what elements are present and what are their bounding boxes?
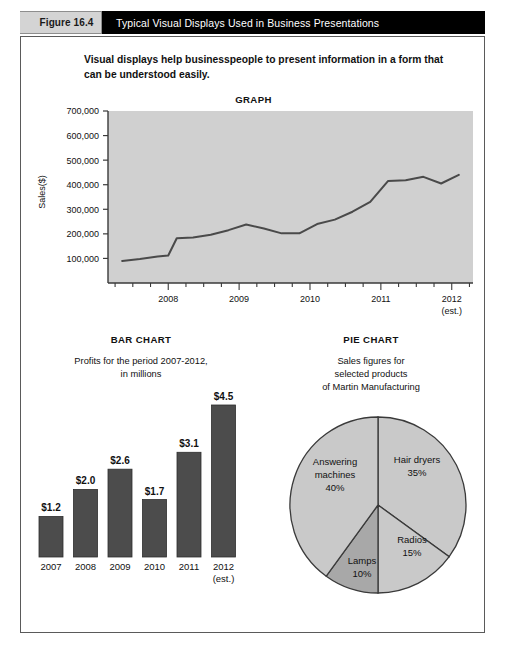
svg-text:2009: 2009 <box>109 561 130 572</box>
svg-text:$2.0: $2.0 <box>76 475 96 486</box>
svg-text:40%: 40% <box>325 482 345 493</box>
svg-text:2010: 2010 <box>144 561 165 572</box>
bar-chart-subtitle: Profits for the period 2007-2012, in mil… <box>31 355 251 381</box>
svg-text:700,000: 700,000 <box>66 106 99 116</box>
bar-chart-bars <box>39 405 236 557</box>
pie-chart-subtitle-line3: of Martin Manufacturing <box>266 381 476 394</box>
svg-text:600,000: 600,000 <box>66 131 99 141</box>
svg-text:Radios: Radios <box>397 534 427 545</box>
svg-text:2012: 2012 <box>213 561 234 572</box>
graph-x-ticks <box>115 283 469 290</box>
figure-number-tab: Figure 16.4 <box>20 11 102 34</box>
svg-text:100,000: 100,000 <box>66 254 99 264</box>
svg-text:2008: 2008 <box>158 294 178 304</box>
svg-text:2011: 2011 <box>179 561 199 572</box>
graph-x-tick-labels: 20082009201020112012(est.) <box>158 294 462 316</box>
svg-text:$4.5: $4.5 <box>214 391 234 402</box>
svg-text:15%: 15% <box>402 547 422 558</box>
intro-text: Visual displays help businesspeople to p… <box>84 52 454 82</box>
bar-chart-category-labels: 200720082009201020112012(est.) <box>40 561 234 584</box>
svg-text:400,000: 400,000 <box>66 180 99 190</box>
bar-chart: $1.2$2.0$2.6$1.7$3.1$4.5 200720082009201… <box>31 385 251 625</box>
graph-y-axis-label: Sales($) <box>37 157 47 227</box>
figure-number-label: Figure 16.4 <box>28 17 94 28</box>
pie-chart-section-title: PIE CHART <box>266 334 476 345</box>
bar-chart-section-title: BAR CHART <box>31 334 251 345</box>
bar-chart-subtitle-line1: Profits for the period 2007-2012, <box>31 355 251 368</box>
svg-text:200,000: 200,000 <box>66 229 99 239</box>
svg-text:2008: 2008 <box>75 561 96 572</box>
pie-chart-subtitle-line2: selected products <box>266 368 476 381</box>
graph-plot-area <box>108 111 473 283</box>
svg-text:2012: 2012 <box>442 294 462 304</box>
svg-text:Lamps: Lamps <box>348 555 377 566</box>
figure-header: Figure 16.4 Typical Visual Displays Used… <box>20 11 485 34</box>
pie-chart-subtitle: Sales figures for selected products of M… <box>266 355 476 394</box>
svg-text:$3.1: $3.1 <box>179 438 199 449</box>
svg-text:2009: 2009 <box>229 294 249 304</box>
pie-chart-slices <box>290 417 466 593</box>
graph-y-ticks: 100,000200,000300,000400,000500,000600,0… <box>66 106 108 263</box>
bar-chart-subtitle-line2: in millions <box>31 368 251 381</box>
svg-text:$2.6: $2.6 <box>110 455 130 466</box>
svg-text:2010: 2010 <box>300 294 320 304</box>
pie-chart: Hair dryers35%Radios15%Lamps10%Answering… <box>286 405 471 605</box>
svg-text:(est.): (est.) <box>441 306 462 316</box>
svg-text:35%: 35% <box>407 467 427 478</box>
pie-chart-subtitle-line1: Sales figures for <box>266 355 476 368</box>
bar-chart-value-labels: $1.2$2.0$2.6$1.7$3.1$4.5 <box>41 391 233 513</box>
svg-text:machines: machines <box>315 469 356 480</box>
svg-text:Answering: Answering <box>313 456 357 467</box>
figure-content-frame: Visual displays help businesspeople to p… <box>20 36 485 633</box>
svg-text:300,000: 300,000 <box>66 205 99 215</box>
svg-text:2007: 2007 <box>40 561 61 572</box>
svg-text:Hair dryers: Hair dryers <box>394 454 441 465</box>
svg-text:(est.): (est.) <box>213 573 235 584</box>
graph-data-line <box>122 175 459 261</box>
svg-text:2011: 2011 <box>371 294 390 304</box>
graph-section-title: GRAPH <box>21 94 486 105</box>
svg-text:10%: 10% <box>352 568 372 579</box>
svg-text:500,000: 500,000 <box>66 156 99 166</box>
svg-text:$1.7: $1.7 <box>145 486 165 497</box>
svg-text:$1.2: $1.2 <box>41 502 61 513</box>
figure-title: Typical Visual Displays Used in Business… <box>116 11 379 34</box>
